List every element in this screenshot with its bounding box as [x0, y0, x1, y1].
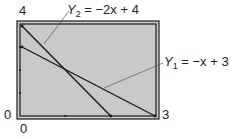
y-min-label: 0	[4, 107, 11, 122]
plot-frame-inner	[20, 24, 156, 116]
graph: Y2 = −2x + 4 Y1 = −x + 3 4 0 0 3	[0, 0, 234, 139]
x-min-label: 0	[20, 121, 27, 136]
x-max-label: 3	[162, 107, 169, 122]
y2-equation-label: Y2 = −2x + 4	[67, 2, 139, 19]
y1-equation-label: Y1 = −x + 3	[164, 54, 229, 71]
y-max-label: 4	[19, 3, 26, 18]
